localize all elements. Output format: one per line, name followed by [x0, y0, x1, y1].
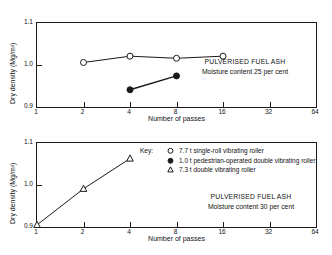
legend-item: 1.0 t pedestrian-operated double vibrati… [166, 156, 316, 166]
x-axis-tick-label: 64 [311, 108, 318, 116]
x-axis-tick-label: 1 [34, 108, 38, 116]
x-axis-tick [270, 222, 271, 227]
marker-filled-circle [168, 158, 173, 163]
x-axis-tick-label: 16 [218, 228, 225, 236]
chart-panel-bottom: Dry density (Mg/m³) Key: 7.7 t single-ro… [0, 128, 332, 255]
y-axis-tick-label: 1.1 [0, 18, 33, 26]
figure-root: Dry density (Mg/m³) PULVERISED FUEL ASH … [0, 0, 332, 255]
x-axis-tick-label: 32 [265, 108, 272, 116]
annotation-line-2: Moisture content 25 per cent [180, 67, 310, 77]
y-axis-tick [37, 65, 42, 66]
x-axis-title-bottom: Number of passes [36, 235, 317, 242]
annotation-bottom: PULVERISED FUEL ASH Moisture content 30 … [186, 192, 316, 212]
x-axis-tick-label: 16 [218, 108, 225, 116]
y-axis-title-bottom: Dry density (Mg/m³) [9, 163, 16, 224]
x-axis-tick [316, 222, 317, 227]
legend-item-label: 7.3 t double vibrating roller [179, 165, 256, 175]
legend-marker-filled-circle-icon [166, 156, 175, 165]
x-axis-tick [177, 102, 178, 107]
y-axis-tick-label: 0.9 [0, 102, 33, 110]
legend-items: 7.7 t single-roll vibrating roller1.0 t … [166, 146, 316, 175]
y-axis-tick-label: 1.0 [0, 60, 33, 68]
x-axis-tick-label: 2 [81, 228, 85, 236]
marker-open-circle [174, 55, 180, 61]
x-axis-tick [223, 102, 224, 107]
legend-item: 7.7 t single-roll vibrating roller [166, 146, 316, 156]
marker-open-triangle [168, 167, 173, 172]
legend-title: Key: [140, 146, 153, 156]
x-axis-tick [316, 102, 317, 107]
x-axis-tick-label: 4 [127, 108, 131, 116]
marker-filled-circle [174, 73, 180, 79]
marker-open-triangle [127, 155, 134, 161]
legend-item-label: 7.7 t single-roll vibrating roller [179, 146, 264, 156]
x-axis-tick [130, 222, 131, 227]
marker-open-circle [127, 53, 133, 59]
x-axis-tick [130, 102, 131, 107]
series-line [130, 76, 177, 90]
annotation-line-1: PULVERISED FUEL ASH [180, 57, 310, 67]
marker-open-triangle [80, 185, 87, 191]
annotation-line-1: PULVERISED FUEL ASH [186, 192, 316, 202]
x-axis-title-top: Number of passes [36, 115, 317, 122]
annotation-line-2: Moisture content 30 per cent [186, 202, 316, 212]
y-axis-tick [37, 185, 42, 186]
y-axis-tick-label: 0.9 [0, 222, 33, 230]
x-axis-tick [84, 102, 85, 107]
x-axis-tick-label: 4 [127, 228, 131, 236]
chart-panel-top: Dry density (Mg/m³) PULVERISED FUEL ASH … [0, 0, 332, 127]
legend-marker-open-circle-icon [166, 146, 175, 155]
x-axis-tick-label: 8 [174, 228, 178, 236]
x-axis-tick-label: 1 [34, 228, 38, 236]
marker-filled-circle [127, 87, 133, 93]
marker-open-triangle [34, 221, 41, 227]
x-axis-tick [223, 222, 224, 227]
legend-marker-open-triangle-icon [166, 165, 175, 174]
marker-open-circle [168, 149, 173, 154]
y-axis-tick-label: 1.1 [0, 138, 33, 146]
y-axis-title-top: Dry density (Mg/m³) [9, 43, 16, 104]
legend-item: 7.3 t double vibrating roller [166, 165, 316, 175]
x-axis-tick-label: 8 [174, 108, 178, 116]
annotation-top: PULVERISED FUEL ASH Moisture content 25 … [180, 57, 310, 77]
x-axis-tick [270, 102, 271, 107]
x-axis-tick-label: 64 [311, 228, 318, 236]
x-axis-tick [177, 222, 178, 227]
y-axis-tick-label: 1.0 [0, 180, 33, 188]
legend: Key: 7.7 t single-roll vibrating roller1… [140, 146, 316, 175]
legend-item-label: 1.0 t pedestrian-operated double vibrati… [179, 156, 316, 166]
x-axis-tick-label: 2 [81, 108, 85, 116]
marker-open-circle [81, 59, 87, 65]
x-axis-tick [84, 222, 85, 227]
x-axis-tick-label: 32 [265, 228, 272, 236]
